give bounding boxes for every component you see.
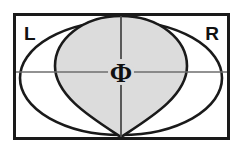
diagram-canvas: L R Φ: [0, 0, 243, 153]
diagram-figure: L R Φ: [0, 0, 243, 153]
label-left: L: [24, 23, 36, 44]
center-phi-symbol: Φ: [110, 58, 132, 88]
label-right: R: [205, 23, 219, 44]
